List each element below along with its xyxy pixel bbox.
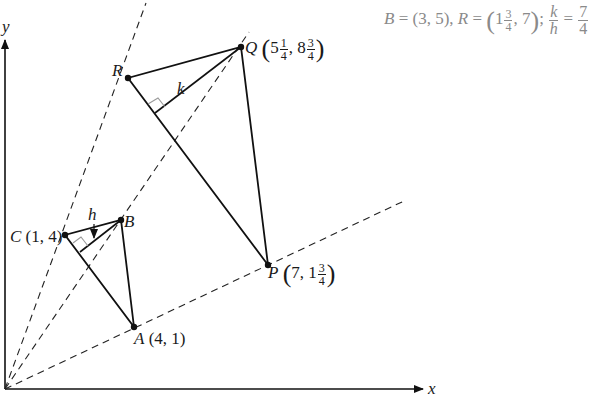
caption-b-label: B bbox=[384, 9, 394, 28]
caption-r-eq: = bbox=[472, 9, 486, 28]
ray-through-a-p bbox=[5, 201, 404, 389]
caption-sep: ; bbox=[539, 9, 544, 28]
label-q: Q (514, 834) bbox=[245, 36, 324, 62]
label-r: R bbox=[112, 62, 122, 79]
label-c: C (1, 4) bbox=[10, 228, 62, 245]
caption-r-label: R bbox=[458, 9, 468, 28]
caption: B = (3, 5), R = (134, 7); kh = 74 bbox=[384, 4, 589, 37]
caption-ratio-eq: = bbox=[559, 9, 577, 28]
caption-ratio-value: 74 bbox=[578, 4, 588, 37]
caption-ratio: kh bbox=[549, 4, 558, 37]
caption-r-rest: , 7 bbox=[513, 9, 530, 28]
y-axis-label: y bbox=[2, 18, 10, 35]
ray-through-b-q bbox=[5, 32, 249, 389]
label-p: P (7, 134) bbox=[268, 261, 335, 287]
point-q bbox=[238, 44, 244, 50]
caption-r-fraction: 34 bbox=[504, 8, 512, 33]
label-b: B bbox=[124, 213, 134, 230]
point-c bbox=[62, 232, 68, 238]
caption-r-whole: 1 bbox=[495, 9, 504, 28]
x-axis-label: x bbox=[428, 380, 436, 395]
point-r bbox=[125, 75, 131, 81]
right-angle-marker-h bbox=[73, 237, 88, 246]
label-h: h bbox=[88, 206, 97, 223]
altitude-k bbox=[155, 47, 241, 113]
caption-b-value: = (3, 5), bbox=[399, 9, 458, 28]
label-k: k bbox=[177, 80, 185, 97]
right-angle-marker-k bbox=[148, 98, 165, 107]
ray-through-c-r bbox=[5, 3, 146, 389]
label-a: A (4, 1) bbox=[134, 330, 185, 347]
